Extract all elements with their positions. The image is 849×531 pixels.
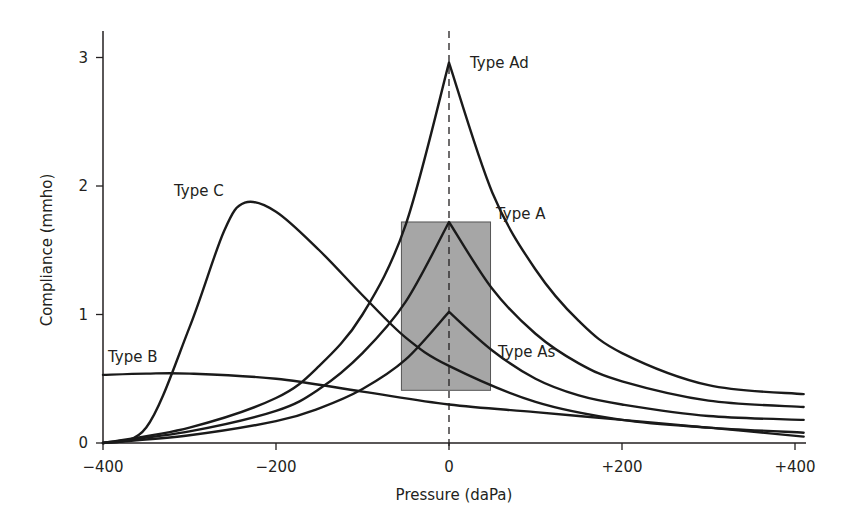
label-type-ad: Type Ad xyxy=(469,54,529,72)
tympanogram-chart: 0123 −400−2000+200+400 Pressure (daPa) C… xyxy=(0,0,849,531)
y-axis: 0123 xyxy=(78,31,103,452)
label-type-c: Type C xyxy=(173,182,224,200)
y-tick-label: 3 xyxy=(78,49,88,67)
label-type-as: Type As xyxy=(497,343,555,361)
x-tick-label: 0 xyxy=(444,458,454,476)
y-tick-label: 0 xyxy=(78,434,88,452)
label-type-a: Type A xyxy=(495,205,546,223)
x-tick-label: +400 xyxy=(774,458,815,476)
x-tick-label: +200 xyxy=(601,458,642,476)
x-tick-label: −400 xyxy=(82,458,123,476)
x-axis: −400−2000+200+400 xyxy=(82,443,815,476)
x-tick-label: −200 xyxy=(255,458,296,476)
y-tick-label: 1 xyxy=(78,306,88,324)
y-tick-label: 2 xyxy=(78,177,88,195)
x-axis-title: Pressure (daPa) xyxy=(396,486,513,504)
label-type-b: Type B xyxy=(107,348,158,366)
y-axis-title: Compliance (mmho) xyxy=(38,174,56,327)
